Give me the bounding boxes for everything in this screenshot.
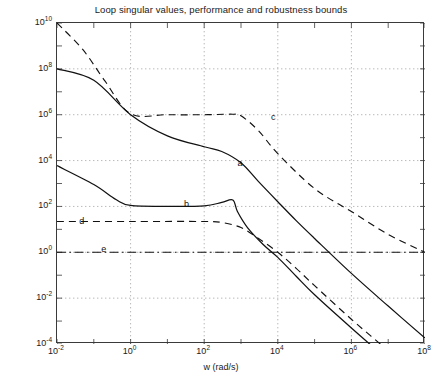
plot-canvas <box>57 23 425 344</box>
x-tick-label: 100 <box>123 346 137 356</box>
x-tick-label: 106 <box>344 346 358 356</box>
x-axis-label: w (rad/s) <box>0 362 442 372</box>
plot-area <box>56 22 424 343</box>
curve-a <box>57 69 425 338</box>
y-tick-label: 100 <box>38 246 52 256</box>
y-tick-label: 102 <box>38 200 52 210</box>
y-tick-label: 1010 <box>35 17 52 27</box>
chart-title: Loop singular values, performance and ro… <box>0 4 442 15</box>
y-tick-label: 104 <box>38 155 52 165</box>
curve-label-d: d <box>79 216 84 226</box>
curve-b <box>57 166 425 344</box>
y-tick-label: 108 <box>38 63 52 73</box>
y-tick-label: 10-2 <box>36 292 52 302</box>
x-tick-label: 108 <box>417 346 431 356</box>
curve-d <box>57 221 425 344</box>
chart-figure: Loop singular values, performance and ro… <box>0 0 442 384</box>
y-tick-label: 106 <box>38 109 52 119</box>
y-axis-tick-labels: 101010810610410210010-210-4 <box>0 0 52 384</box>
x-tick-label: 104 <box>270 346 284 356</box>
curve-label-a: a <box>237 158 242 168</box>
curve-label-b: b <box>184 199 189 209</box>
curve-label-e: e <box>101 244 106 254</box>
curve-label-c: c <box>271 112 276 122</box>
x-tick-label: 10-2 <box>48 346 64 356</box>
x-tick-label: 102 <box>196 346 210 356</box>
